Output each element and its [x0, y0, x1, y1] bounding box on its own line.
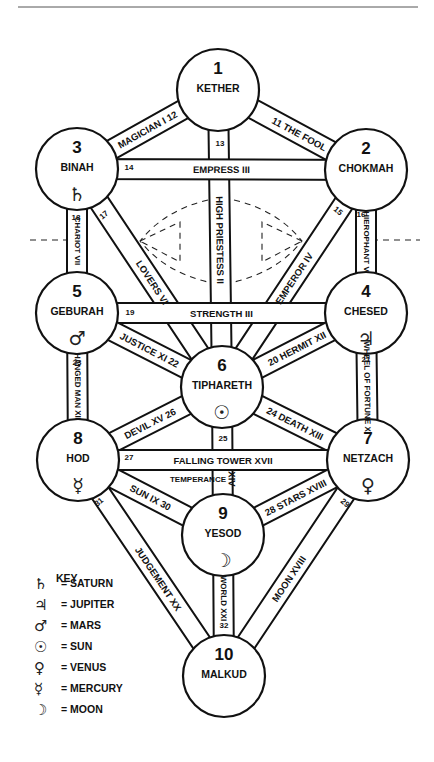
- key-item-jupiter: ♃= JUPITER: [34, 596, 115, 614]
- path-label-16: HIEROPHANT V: [362, 211, 371, 272]
- path-label-25: XIV: [226, 471, 237, 487]
- sephira-name: BINAH: [60, 161, 93, 173]
- sephira-number: 6: [217, 356, 226, 375]
- saturn-icon: ♄: [68, 183, 85, 205]
- key-label: = SUN: [61, 640, 92, 652]
- sephira-geburah: 5GEBURAH♂: [36, 272, 118, 354]
- sephira-name: NETZACH: [343, 452, 393, 464]
- key-label: = MOON: [61, 703, 103, 715]
- sephira-kether: 1KETHER: [177, 49, 259, 131]
- sephira-name: GEBURAH: [50, 305, 103, 317]
- moon-icon: ☽: [34, 701, 47, 719]
- path-label-19: STRENGTH III: [190, 308, 253, 319]
- jupiter-icon: ♃: [34, 596, 47, 614]
- path-label-13: HIGH PRIESTESS II: [214, 196, 226, 284]
- key-item-mars: ♂= MARS: [34, 617, 101, 635]
- venus-icon: ♀: [361, 474, 375, 496]
- key-label: = VENUS: [61, 661, 106, 673]
- path-number-n25: 25: [219, 434, 228, 443]
- sephira-tiphareth: 6TIPHARETH☉: [181, 346, 263, 428]
- mercury-icon: ☿: [72, 474, 84, 496]
- sephira-number: 7: [363, 429, 372, 448]
- mercury-icon: ☿: [34, 680, 43, 698]
- sephira-number: 5: [72, 282, 81, 301]
- path-label-31: JUDGEMENT XX: [133, 545, 184, 614]
- sephira-number: 3: [72, 138, 81, 157]
- key-item-moon: ☽= MOON: [34, 701, 103, 719]
- mars-icon: ♂: [34, 617, 47, 635]
- path-number-n16: 16: [357, 210, 366, 219]
- path-number-n19: 19: [126, 308, 135, 317]
- saturn-icon: ♄: [34, 575, 47, 593]
- sun-icon: ☉: [34, 638, 47, 656]
- key-label: = JUPITER: [61, 598, 115, 610]
- key-item-venus: ♀= VENUS: [34, 659, 106, 677]
- sephira-binah: 3BINAH♄: [36, 128, 118, 210]
- sephira-name: KETHER: [196, 82, 240, 94]
- sephira-number: 4: [361, 282, 371, 301]
- key-item-saturn: ♄= SATURN: [34, 575, 113, 593]
- sephira-yesod: 9YESOD☽: [182, 494, 264, 576]
- key-label: = SATURN: [61, 577, 113, 589]
- key-label: = MARS: [61, 619, 101, 631]
- sephira-number: 10: [215, 645, 234, 664]
- path-number-n18: 18: [72, 213, 81, 222]
- sephira-name: CHOKMAH: [339, 162, 394, 174]
- path-number-temperance: TEMPERANCE: [170, 475, 227, 484]
- sephira-number: 2: [361, 139, 370, 158]
- sephira-number: 8: [73, 429, 82, 448]
- key-label: = MERCURY: [61, 682, 123, 694]
- path-label-27: FALLING TOWER XVII: [173, 455, 272, 466]
- path-label-18: CHARIOT VII: [73, 217, 82, 265]
- path-label-14: EMPRESS III: [193, 164, 250, 175]
- path-number-n27: 27: [125, 453, 134, 462]
- sephira-name: MALKUD: [201, 668, 247, 680]
- path-label-32: WORLD XXI: [219, 576, 228, 621]
- path-number-n21: 21: [362, 355, 371, 364]
- sephira-number: 9: [218, 504, 227, 523]
- sephira-hod: 8HOD☿: [37, 419, 119, 501]
- path-number-n32: 32: [220, 621, 229, 630]
- path-number-n13: 13: [216, 139, 225, 148]
- sephira-name: CHESED: [344, 305, 388, 317]
- sun-icon: ☉: [213, 401, 230, 423]
- key-legend: KEY ♄= SATURN♃= JUPITER♂= MARS☉= SUN♀= V…: [34, 572, 123, 719]
- tree-of-life-diagram: 1KETHER2CHOKMAH3BINAH♄4CHESED♃5GEBURAH♂6…: [0, 0, 434, 762]
- key-item-mercury: ☿= MERCURY: [34, 680, 123, 698]
- sephira-name: TIPHARETH: [192, 379, 252, 391]
- sephira-number: 1: [213, 59, 222, 78]
- path-number-n23: 23: [73, 358, 82, 367]
- sephira-malkud: 10MALKUD: [183, 635, 265, 717]
- path-number-n14: 14: [125, 163, 134, 172]
- venus-icon: ♀: [34, 659, 45, 677]
- sephira-chokmah: 2CHOKMAH: [325, 129, 407, 211]
- moon-icon: ☽: [214, 549, 231, 571]
- key-item-sun: ☉= SUN: [34, 638, 92, 656]
- sephira-name: YESOD: [205, 527, 242, 539]
- mars-icon: ♂: [68, 327, 85, 349]
- sephira-name: HOD: [66, 452, 90, 464]
